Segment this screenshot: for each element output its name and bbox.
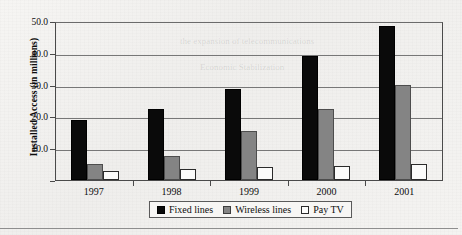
bar-paytv-2000 — [334, 166, 350, 180]
bar-group-1999 — [225, 23, 273, 180]
bar-paytv-1997 — [103, 171, 119, 181]
legend-swatch-icon — [223, 206, 231, 214]
page-horizontal-rule — [0, 228, 458, 229]
x-tick-label-1997: 1997 — [84, 186, 104, 202]
bar-fixed-1997 — [71, 120, 87, 180]
bar-group-2000 — [302, 23, 350, 180]
legend-item-fixed-lines: Fixed lines — [157, 204, 213, 215]
legend-swatch-icon — [301, 206, 309, 214]
bar-fixed-2001 — [379, 26, 395, 180]
bar-wireless-1997 — [87, 164, 103, 180]
bar-fixed-1998 — [148, 109, 164, 181]
bar-chart: Economic Stabilization Percent of househ… — [0, 0, 462, 235]
y-axis-ticks — [0, 0, 55, 203]
chart-legend: Fixed lines Wireless lines Pay TV — [149, 201, 352, 218]
bar-group-1998 — [148, 23, 196, 180]
x-axis-tick-labels: 1997 1998 1999 2000 2001 — [55, 186, 443, 202]
legend-label: Fixed lines — [169, 204, 213, 215]
bar-groups — [56, 23, 442, 180]
bar-paytv-2001 — [411, 164, 427, 180]
bar-paytv-1999 — [257, 167, 273, 180]
bar-group-1997 — [71, 23, 119, 180]
bar-wireless-2001 — [395, 85, 411, 180]
bar-wireless-2000 — [318, 109, 334, 181]
plot-area — [55, 22, 443, 181]
x-tick-label-2001: 2001 — [394, 186, 414, 202]
x-tick-label-1998: 1998 — [161, 186, 181, 202]
legend-label: Pay TV — [313, 204, 344, 215]
bar-wireless-1999 — [241, 131, 257, 180]
bar-group-2001 — [379, 23, 427, 180]
legend-swatch-icon — [157, 206, 165, 214]
x-tick-label-1999: 1999 — [239, 186, 259, 202]
bar-fixed-2000 — [302, 56, 318, 180]
legend-label: Wireless lines — [235, 204, 291, 215]
x-tick-label-2000: 2000 — [317, 186, 337, 202]
bar-paytv-1998 — [180, 169, 196, 180]
legend-item-pay-tv: Pay TV — [301, 204, 344, 215]
bar-wireless-1998 — [164, 156, 180, 180]
bar-fixed-1999 — [225, 89, 241, 180]
legend-item-wireless-lines: Wireless lines — [223, 204, 291, 215]
